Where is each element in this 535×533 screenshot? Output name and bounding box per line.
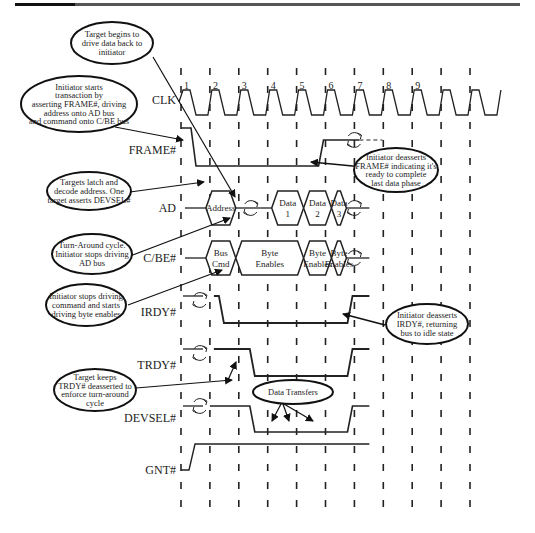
cbe-segment	[304, 241, 332, 275]
note-frame-deassert-text: last data phase	[371, 178, 421, 188]
note-turnaround-text: AD bus	[79, 258, 105, 268]
target-drive-arrow	[153, 57, 235, 197]
initiator-starts-arrow	[115, 127, 183, 140]
cbe-segment-text-line2: Cmd	[212, 259, 230, 269]
ad-segment-text-line1: Data	[330, 198, 347, 208]
cbe-segment-text-line1: Byte	[261, 248, 278, 258]
ad-segment-text-line2: 3	[337, 209, 342, 219]
note-data-transfers-text: Data Transfers	[268, 387, 318, 397]
signal-label-ad: AD	[159, 201, 177, 215]
note-target-keeps-trdy-text: cycle	[86, 398, 104, 408]
signal-label-frame: FRAME#	[129, 143, 176, 157]
cbe-segment-text-line1: Bus	[214, 248, 229, 258]
cbe-segment	[332, 241, 347, 275]
ad-segment-text-line2: 2	[315, 209, 320, 219]
clock-gridlines	[181, 68, 470, 515]
ad-segment-text-line1: Data	[309, 198, 326, 208]
cbe-segment-text-line2: Enables	[255, 259, 284, 269]
frame-waveform	[181, 128, 359, 166]
signal-label-trdy: TRDY#	[137, 358, 176, 372]
irdy-deassert-arrow	[343, 314, 385, 325]
ad-segment	[272, 191, 304, 225]
signal-waveforms: AddressData1Data2Data3BusCmdByteEnablesB…	[179, 90, 501, 470]
note-irdy-deassert-text: bus to idle state	[400, 328, 453, 338]
ad-segment-text-line1: Address	[206, 203, 236, 213]
targets-latch-arrow	[130, 182, 204, 192]
ad-segment	[332, 191, 347, 225]
irdy-waveform	[214, 296, 370, 323]
target-keeps-trdy-line	[136, 380, 232, 388]
initiator-stops-cmd-arrow	[128, 270, 222, 305]
target-keeps-trdy-arrow	[228, 362, 236, 380]
trdy-waveform	[214, 349, 370, 376]
signal-label-irdy: IRDY#	[141, 305, 176, 319]
cbe-segment-text-line1: Byte	[330, 248, 347, 258]
signal-label-clk: CLK	[152, 93, 176, 107]
devsel-waveform	[210, 406, 370, 432]
ad-segment-text-line1: Data	[279, 198, 296, 208]
ad-segment	[304, 191, 332, 225]
note-initiator-starts-text: and command onto C/BE bus	[29, 116, 129, 126]
signal-label-gnt: GNT#	[145, 463, 176, 477]
note-target-drive-text: initiator	[99, 47, 126, 57]
data-transfer-arrow	[272, 404, 281, 421]
cbe-segment	[236, 241, 304, 275]
note-initiator-stops-cmd-text: driving byte enables	[52, 309, 121, 319]
cbe-segment-text-line1: Byte	[309, 248, 326, 258]
note-targets-latch-text: target asserts DEVSEL#	[48, 195, 132, 205]
signal-label-devsel: DEVSEL#	[124, 411, 176, 425]
ad-segment-text-line2: 1	[285, 209, 290, 219]
clk-waveform	[179, 90, 501, 115]
timing-diagram: CLKFRAME#ADC/BE#IRDY#TRDY#DEVSEL#GNT#123…	[0, 0, 535, 533]
signal-label-cbe: C/BE#	[143, 251, 176, 265]
